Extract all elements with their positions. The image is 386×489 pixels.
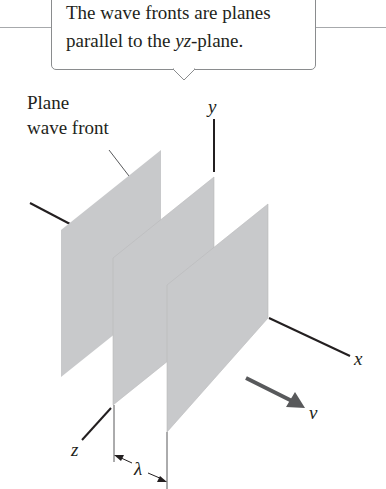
velocity-label: v	[309, 403, 317, 423]
callout-line-2-post: -plane.	[191, 30, 243, 51]
velocity-arrow-shaft	[246, 378, 292, 401]
y-axis-label: y	[208, 97, 216, 117]
callout-text: The wave fronts are planes parallel to t…	[66, 0, 271, 55]
callout-line-2-italic: yz	[175, 30, 191, 51]
callout-pointer	[173, 68, 195, 82]
plane-label-line-2: wave front	[27, 116, 109, 140]
x-axis	[269, 318, 350, 356]
callout-line-2: parallel to the yz-plane.	[66, 27, 271, 55]
wavelength-label: λ	[134, 459, 142, 479]
x-axis-label: x	[354, 349, 362, 369]
callout-box: The wave fronts are planes parallel to t…	[51, 0, 316, 70]
wavelength-arrow-right-head	[157, 476, 167, 482]
z-axis	[82, 408, 111, 440]
z-axis-label: z	[71, 440, 78, 460]
x-axis-back	[30, 203, 70, 224]
callout-line-1: The wave fronts are planes	[66, 0, 271, 27]
callout-line-2-pre: parallel to the	[66, 30, 175, 51]
wavelength-arrow-left-head	[114, 455, 124, 461]
leader-line	[109, 150, 129, 176]
plane-label-line-1: Plane	[27, 91, 69, 115]
